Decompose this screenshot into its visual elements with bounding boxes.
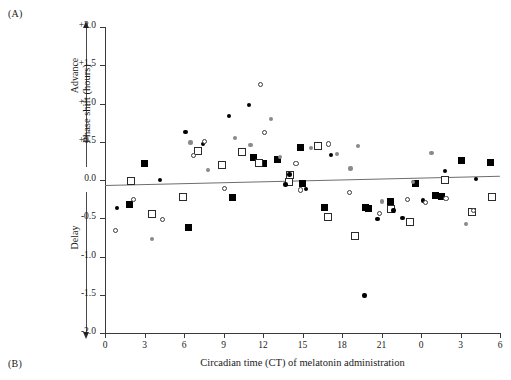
data-point-gray-dot: [380, 199, 384, 203]
data-point-gray-dot: [335, 152, 339, 156]
data-point-open-circle: [262, 130, 267, 135]
data-point-open-circle: [160, 217, 165, 222]
x-axis-tick: [461, 333, 462, 338]
x-axis-tick-label: 15: [291, 340, 315, 350]
data-point-open-circle: [222, 186, 227, 191]
data-point-gray-dot: [269, 117, 273, 121]
data-point-gray-dot: [429, 151, 433, 155]
data-point-open-square: [314, 142, 322, 150]
data-point-filled-square: [297, 144, 304, 151]
data-point-gray-dot: [356, 144, 360, 148]
delay-direction-label: Delay: [69, 178, 80, 298]
y-axis-tick-label: -0.5: [62, 211, 96, 221]
data-point-filled-circle: [304, 187, 308, 191]
data-point-filled-square: [387, 198, 394, 205]
x-axis-tick: [500, 333, 501, 338]
data-point-open-square: [148, 210, 156, 218]
data-point-open-square: [488, 193, 496, 201]
data-point-open-circle: [202, 139, 207, 144]
y-axis-tick-label: -1.0: [62, 250, 96, 260]
data-point-open-square: [255, 159, 263, 167]
figure-panel-a: (A) (B) Advance Delay Phase shift (hours…: [0, 0, 511, 380]
data-point-open-square: [351, 232, 359, 240]
data-point-open-circle: [443, 196, 448, 201]
x-axis-tick: [421, 333, 422, 338]
x-axis-tick-label: 3: [133, 340, 157, 350]
data-point-filled-square: [365, 205, 372, 212]
scatter-plot-area: [105, 27, 500, 333]
data-point-filled-square: [229, 194, 236, 201]
data-point-open-square: [127, 177, 135, 185]
data-point-filled-circle: [375, 217, 379, 221]
data-point-filled-circle: [443, 169, 447, 173]
data-point-filled-circle: [247, 103, 251, 107]
x-axis-tick-label: 9: [212, 340, 236, 350]
data-point-filled-circle: [283, 182, 287, 186]
y-axis-tick-label: +1.5: [62, 58, 96, 68]
x-axis-tick-label: 18: [330, 340, 354, 350]
x-axis-tick: [342, 333, 343, 338]
data-point-filled-circle: [329, 153, 333, 157]
data-point-filled-square: [126, 201, 133, 208]
x-axis-tick-label: 6: [172, 340, 196, 350]
data-point-open-square: [441, 176, 449, 184]
x-axis-tick-label: 12: [251, 340, 275, 350]
data-point-filled-circle: [362, 293, 366, 297]
data-point-gray-dot: [206, 168, 210, 172]
y-axis-tick-label: +2.0: [62, 20, 96, 30]
data-point-filled-circle: [287, 172, 291, 176]
data-point-open-circle: [113, 228, 118, 233]
x-axis-tick-label: 0: [409, 340, 433, 350]
x-axis-tick-label: 6: [488, 340, 511, 350]
data-point-gray-dot: [248, 143, 252, 147]
data-point-filled-circle: [391, 208, 395, 212]
data-point-open-circle: [326, 141, 331, 146]
data-point-open-square: [238, 148, 246, 156]
y-axis-tick-label: +1.0: [62, 97, 96, 107]
x-axis-title: Circadian time (CT) of melatonin adminis…: [105, 357, 500, 368]
x-axis-tick: [184, 333, 185, 338]
data-point-filled-square: [185, 224, 192, 231]
data-point-filled-circle: [183, 130, 187, 134]
data-point-filled-square: [487, 159, 494, 166]
data-point-filled-circle: [227, 114, 231, 118]
data-point-filled-square: [458, 157, 465, 164]
x-axis-tick-label: 0: [93, 340, 117, 350]
data-point-open-circle: [423, 200, 428, 205]
data-point-open-circle: [405, 197, 410, 202]
data-point-gray-dot: [233, 136, 237, 140]
data-point-open-circle: [377, 211, 382, 216]
data-point-open-circle: [293, 161, 298, 166]
y-axis-tick-label: 0.0: [62, 173, 96, 183]
x-axis-tick: [105, 333, 106, 338]
data-point-filled-circle: [158, 178, 162, 182]
x-axis-tick: [263, 333, 264, 338]
data-point-filled-square: [141, 160, 148, 167]
y-axis-tick-label: -2.0: [62, 326, 96, 336]
advance-direction-label: Advance: [69, 16, 80, 136]
y-axis-tick-label: -1.5: [62, 288, 96, 298]
data-point-filled-circle: [474, 177, 478, 181]
data-point-filled-circle: [400, 216, 404, 220]
data-point-open-circle: [298, 187, 303, 192]
data-point-gray-dot: [464, 222, 468, 226]
data-point-open-circle: [347, 190, 352, 195]
data-point-gray-dot: [309, 146, 313, 150]
data-point-gray-dot: [150, 237, 154, 241]
x-axis-tick: [224, 333, 225, 338]
data-point-open-circle: [131, 197, 136, 202]
y-axis-tick-label: +0.5: [62, 135, 96, 145]
data-point-open-circle: [191, 153, 196, 158]
data-point-filled-circle: [115, 206, 119, 210]
data-point-filled-square: [321, 204, 328, 211]
data-point-open-square: [406, 218, 414, 226]
x-axis-tick-label: 21: [370, 340, 394, 350]
data-point-open-square: [179, 193, 187, 201]
x-axis-tick-label: 3: [449, 340, 473, 350]
data-point-gray-dot: [278, 155, 282, 159]
panel-b-label: (B): [8, 358, 22, 369]
panel-a-label: (A): [8, 8, 22, 19]
x-axis-tick: [382, 333, 383, 338]
data-point-gray-dot: [348, 166, 352, 170]
data-point-open-circle: [258, 82, 263, 87]
